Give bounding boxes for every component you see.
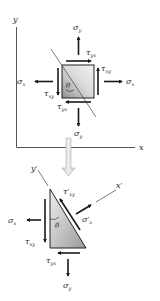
tau-xy-left-label: τxy <box>44 89 54 100</box>
stress-element-triangle: θ <box>50 189 86 248</box>
sigma-x-left-label: σx <box>17 77 25 87</box>
tau-yx-top-label: τyx <box>86 48 96 59</box>
tau-yx-bottom-label-bottom: τyx <box>46 256 56 267</box>
sigma-x-left-label-bottom: σx <box>8 216 16 226</box>
x-axis-label: x <box>139 143 144 152</box>
tau-yx-bottom-label: τyx <box>57 102 67 113</box>
tau-xy-right-label: τxy <box>101 64 111 75</box>
sigma-x-right-label: σx <box>126 77 134 87</box>
stress-transformation-diagram: y x θ σy τyx τxy σx σx τxy τyx σy y′ x′ <box>0 0 160 301</box>
x-prime-axis <box>96 190 116 202</box>
y-prime-axis <box>38 170 48 186</box>
sigma-y-bottom-label: σy <box>74 129 82 140</box>
y-axis-label: y <box>12 15 18 24</box>
sigma-x-prime-arrow <box>76 205 91 214</box>
x-prime-label: x′ <box>116 181 123 190</box>
tau-xy-left-label-bottom: τxy <box>25 237 35 248</box>
sigma-x-prime-label: σ′x <box>82 215 92 225</box>
sigma-y-bottom-label-bottom: σy <box>63 281 71 292</box>
transition-arrow <box>62 138 75 176</box>
tau-xy-prime-label: τ′xy <box>63 187 75 198</box>
sigma-y-top-label: σy <box>73 23 81 34</box>
y-prime-label: y′ <box>30 164 38 173</box>
